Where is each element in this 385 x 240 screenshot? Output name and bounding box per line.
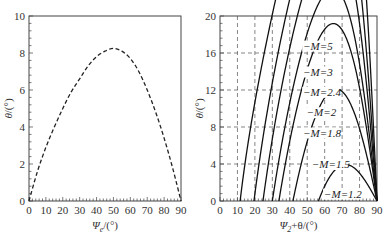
y-tick-label: 2 <box>20 158 26 170</box>
x-tick-label: 50 <box>302 204 314 216</box>
x-tick-label: 60 <box>319 204 331 216</box>
y-tick-label: 6 <box>20 84 26 96</box>
x-tick-label: 40 <box>91 204 103 216</box>
left-chart-x-axis-label: Ψe/(°) <box>92 219 118 234</box>
left-chart-y-axis-label: θ/(°) <box>2 98 15 119</box>
x-tick-label: 20 <box>249 204 261 216</box>
x-tick-label: 0 <box>217 204 223 216</box>
curve-label: −M=2.4 <box>303 86 341 98</box>
x-tick-label: 50 <box>108 204 120 216</box>
x-tick-label: 70 <box>142 204 154 216</box>
curve-label: −M=1.5 <box>312 158 350 170</box>
curve-label: −M=2 <box>307 106 337 118</box>
x-tick-label: 40 <box>284 204 296 216</box>
y-tick-label: 8 <box>20 47 26 59</box>
theta-dashed-curve <box>29 48 181 201</box>
curve-label: −M=1.8 <box>303 127 341 139</box>
x-tick-label: 30 <box>267 204 279 216</box>
x-tick-label: 90 <box>372 204 384 216</box>
x-tick-label: 0 <box>26 204 32 216</box>
y-tick-label: 4 <box>211 158 217 170</box>
y-tick-label: 16 <box>205 47 217 59</box>
right-chart-x-axis-label: Ψ2+θ/(°) <box>280 219 318 234</box>
x-tick-label: 90 <box>176 204 188 216</box>
y-tick-label: 20 <box>205 10 217 22</box>
curve-label: −M=3 <box>303 66 333 78</box>
y-tick-label: 10 <box>14 10 26 22</box>
x-tick-label: 30 <box>74 204 86 216</box>
curve-label: −M=5 <box>303 40 333 52</box>
x-tick-label: 70 <box>337 204 349 216</box>
left-chart-frame <box>29 16 181 201</box>
x-tick-label: 20 <box>57 204 69 216</box>
curve-label: −M=1.2 <box>324 188 362 200</box>
y-tick-label: 0 <box>20 195 26 207</box>
x-tick-label: 80 <box>354 204 366 216</box>
chart-canvas: 01020304050607080900246810Ψe/(°)θ/(°) 01… <box>0 0 385 240</box>
y-tick-label: 12 <box>205 84 216 96</box>
right-chart-y-axis-label: θ/(°) <box>193 98 206 119</box>
x-tick-label: 10 <box>232 204 244 216</box>
y-tick-label: 8 <box>211 121 217 133</box>
y-tick-label: 4 <box>20 121 26 133</box>
x-tick-label: 80 <box>159 204 171 216</box>
y-tick-label: 0 <box>211 195 217 207</box>
x-tick-label: 60 <box>125 204 137 216</box>
left-chart: 01020304050607080900246810Ψe/(°)θ/(°) <box>2 10 187 234</box>
x-tick-label: 10 <box>40 204 52 216</box>
right-chart: 0102030405060708090048121620Ψ2+θ/(°)θ/(°… <box>193 0 383 234</box>
